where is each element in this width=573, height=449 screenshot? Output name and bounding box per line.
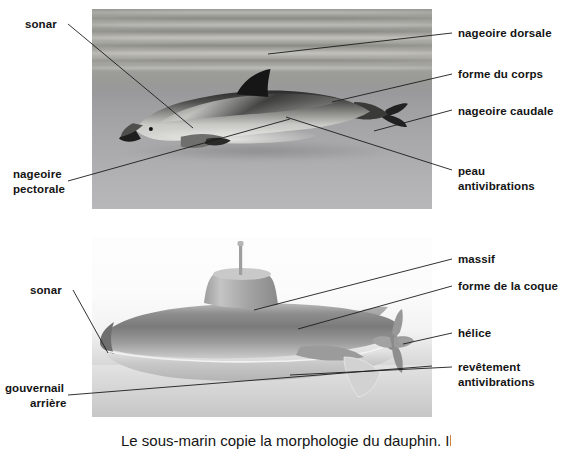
page-root: sonar nageoire pectorale nageoire dorsal… xyxy=(0,0,573,449)
submarine-drawing xyxy=(92,237,432,417)
dolphin-photo xyxy=(92,9,432,209)
propeller-blade xyxy=(372,336,392,348)
submarine-hull xyxy=(100,303,400,358)
label-dolphin-body-shape: forme du corps xyxy=(458,67,543,83)
water-ripple xyxy=(92,17,432,20)
water-ripple xyxy=(92,59,432,62)
label-dolphin-caudal-fin: nageoire caudale xyxy=(458,104,554,120)
periscope-head xyxy=(238,241,244,246)
water-ripple xyxy=(92,51,432,55)
label-sub-coating-line1: revêtement xyxy=(458,360,520,376)
label-sub-sonar: sonar xyxy=(30,283,62,299)
dolphin-dorsal-fin xyxy=(237,69,271,97)
label-sub-sail: massif xyxy=(458,252,495,268)
label-sub-rudder-line1: gouvernail xyxy=(5,381,64,397)
label-dolphin-skin-line2: antivibrations xyxy=(458,179,535,195)
water-ripple xyxy=(92,11,432,14)
label-dolphin-skin-line1: peau xyxy=(458,164,485,180)
label-dolphin-sonar: sonar xyxy=(25,17,57,33)
label-sub-rudder-line2: arrière xyxy=(30,396,67,412)
label-sub-propeller: hélice xyxy=(458,326,491,342)
periscope-mast xyxy=(239,243,242,275)
label-sub-coating-line2: antivibrations xyxy=(458,375,535,391)
dolphin-illustration xyxy=(119,69,408,161)
label-dolphin-pectoral-line1: nageoire xyxy=(13,167,62,183)
water-ripple xyxy=(92,44,432,47)
caption-clipped: Le sous-marin copie la morphologie du da… xyxy=(121,432,451,449)
propeller-shaft xyxy=(398,338,412,343)
water-ripple xyxy=(92,36,432,40)
dolphin-eye xyxy=(149,127,153,131)
water-ripple xyxy=(92,23,432,27)
water-ripple xyxy=(92,30,432,33)
label-dolphin-dorsal-fin: nageoire dorsale xyxy=(458,26,552,42)
label-sub-hull-shape: forme de la coque xyxy=(458,279,558,295)
caption-text: Le sous-marin copie la morphologie du da… xyxy=(121,432,451,449)
submarine-illustration xyxy=(92,237,432,417)
label-dolphin-pectoral-line2: pectorale xyxy=(13,182,65,198)
